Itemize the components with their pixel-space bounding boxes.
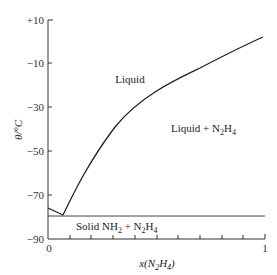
region-label-solid: Solid NH2 + N2H4	[76, 220, 157, 235]
region-label-liquid-n2h4: Liquid + N2H4	[171, 122, 236, 137]
y-ticks	[48, 63, 52, 195]
y-tick-label: +10	[27, 14, 45, 26]
y-axis-title: θ/°C	[12, 119, 24, 140]
phase-diagram: +10 −10 −30 −50 −70 −90 0 1 θ/°C x(N2H4)…	[0, 0, 277, 275]
nh3-liquidus-line	[48, 208, 63, 215]
x-tick-label: 1	[262, 242, 268, 254]
y-tick-label: −50	[27, 145, 45, 157]
region-label-liquid: Liquid	[115, 73, 145, 85]
y-tick-label: −70	[27, 189, 45, 201]
y-tick-label: −90	[27, 233, 45, 245]
x-ticks	[70, 234, 265, 239]
x-axis-title: x(N2H4)	[138, 257, 175, 272]
x-tick-label: 0	[46, 242, 52, 254]
y-tick-label: −30	[27, 101, 45, 113]
n2h4-liquidus-curve	[63, 37, 263, 215]
y-tick-label: −10	[27, 57, 45, 69]
